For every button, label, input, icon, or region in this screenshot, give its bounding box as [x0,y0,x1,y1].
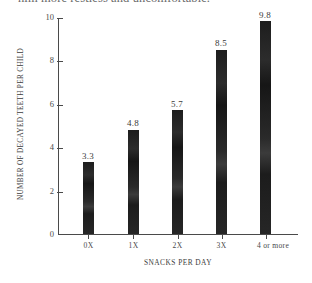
x-tick-label-1: 1X [119,241,148,250]
y-tick-label: 2 [50,186,54,196]
plot-area: 10 8 6 4 2 0 3. [58,18,298,235]
y-tick-mark [57,192,63,193]
x-tick-label-4: 4 or more [244,241,302,250]
y-tick-mark [57,18,63,19]
x-tick-mark [266,235,267,239]
bar-1[interactable] [128,130,139,234]
y-tick-mark [57,148,63,149]
x-tick-mark [88,235,89,239]
x-tick-label-2: 2X [163,241,192,250]
bar-value-3: 8.5 [206,38,236,48]
bar-2[interactable] [172,110,183,234]
y-tick-label: 6 [50,99,54,109]
bar-value-2: 5.7 [162,99,192,109]
x-tick-label-0: 0X [74,241,103,250]
y-tick-label: 10 [46,12,55,22]
y-tick-label: 4 [50,142,54,152]
y-tick-label: 0 [50,229,54,239]
y-tick-mark [57,61,63,62]
x-tick-mark [222,235,223,239]
bar-chart: NUMBER OF DECAYED TEETH PER CHILD 10 8 6… [0,0,312,283]
x-axis-title: SNACKS PER DAY [58,258,298,267]
x-tick-mark [133,235,134,239]
bar-value-1: 4.8 [118,118,148,128]
bar-value-0: 3.3 [73,151,103,161]
bar-3[interactable] [216,50,227,235]
y-tick-label: 8 [50,55,54,65]
bar-0[interactable] [83,162,94,234]
x-tick-mark [178,235,179,239]
x-tick-label-3: 3X [207,241,236,250]
bar-value-4: 9.8 [250,10,280,20]
y-axis-line [58,18,59,235]
bar-4[interactable] [260,21,271,234]
y-axis-title: NUMBER OF DECAYED TEETH PER CHILD [17,29,25,219]
y-tick-mark [57,105,63,106]
